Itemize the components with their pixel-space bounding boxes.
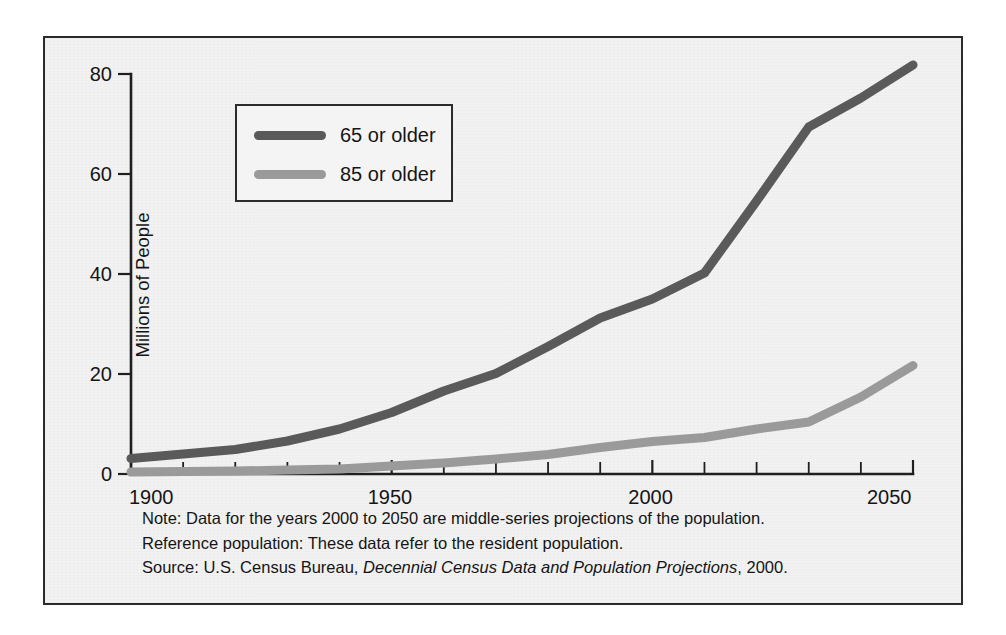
note-source: Source: U.S. Census Bureau, Decennial Ce… — [142, 555, 932, 580]
figure-root: 020406080 1900195020002050 Millions of P… — [0, 0, 1006, 635]
chart-legend: 65 or older 85 or older — [235, 104, 453, 202]
figure-notes: Note: Data for the years 2000 to 2050 ar… — [142, 506, 932, 580]
source-suffix: , 2000. — [737, 558, 787, 576]
note-data-projection: Note: Data for the years 2000 to 2050 ar… — [142, 506, 932, 531]
y-tick-label-0: 0 — [57, 463, 112, 486]
legend-item-1: 85 or older — [237, 155, 451, 194]
legend-label-85-or-older: 85 or older — [340, 163, 436, 186]
source-prefix: Source: U.S. Census Bureau, — [142, 558, 358, 576]
y-axis-ticks — [118, 74, 131, 474]
legend-swatch-65-or-older — [254, 131, 326, 140]
legend-item-0: 65 or older — [237, 116, 451, 155]
y-tick-label-20: 20 — [57, 363, 112, 386]
legend-label-65-or-older: 65 or older — [340, 124, 436, 147]
figure-frame: 020406080 1900195020002050 Millions of P… — [43, 36, 963, 605]
series-line-85-or-older — [131, 366, 913, 473]
y-axis-title: Millions of People — [132, 175, 154, 395]
note-reference-population: Reference population: These data refer t… — [142, 531, 932, 556]
y-tick-label-80: 80 — [57, 63, 112, 86]
source-title-text: Decennial Census Data and Population Pro… — [363, 558, 737, 576]
y-tick-label-60: 60 — [57, 163, 112, 186]
y-tick-label-40: 40 — [57, 263, 112, 286]
legend-swatch-85-or-older — [254, 170, 326, 179]
